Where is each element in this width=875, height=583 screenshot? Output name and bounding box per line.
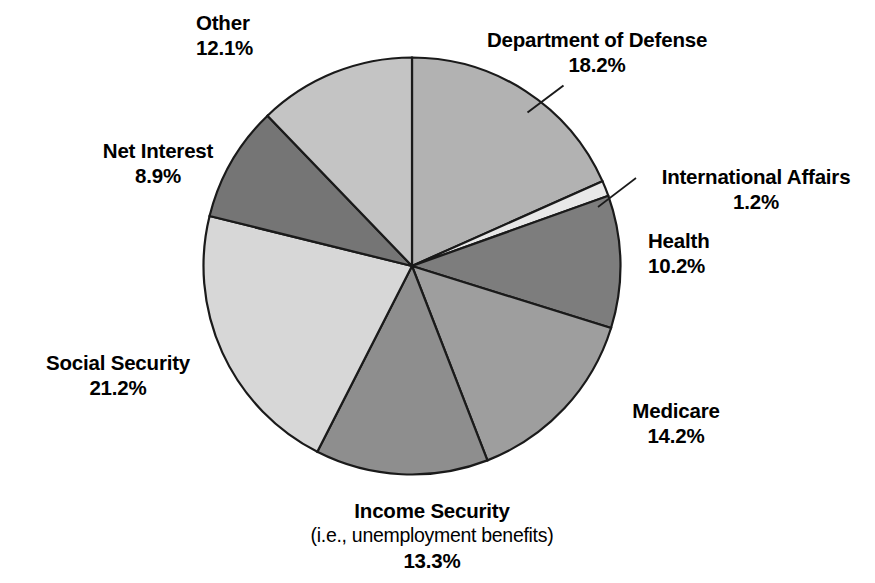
slice-label-social-security: Social Security 21.2%	[18, 350, 218, 400]
slice-label-international-affairs-name: International Affairs	[640, 164, 872, 189]
slice-label-income-security-value: 13.3%	[246, 548, 618, 573]
pie-chart-graphic	[0, 0, 875, 583]
slice-label-other-name: Other	[196, 10, 326, 35]
slice-label-international-affairs-value: 1.2%	[640, 189, 872, 214]
slice-label-net-interest-value: 8.9%	[72, 163, 244, 188]
pie-chart: Other 12.1% Department of Defense 18.2% …	[0, 0, 875, 583]
slice-label-department-of-defense: Department of Defense 18.2%	[452, 27, 742, 77]
slice-label-other-value: 12.1%	[196, 35, 326, 60]
pie-slices	[204, 58, 621, 475]
slice-label-department-of-defense-name: Department of Defense	[452, 27, 742, 52]
slice-label-medicare-value: 14.2%	[596, 423, 756, 448]
slice-label-medicare: Medicare 14.2%	[596, 398, 756, 448]
slice-label-net-interest: Net Interest 8.9%	[72, 138, 244, 188]
slice-label-health-name: Health	[648, 228, 768, 253]
slice-label-department-of-defense-value: 18.2%	[452, 52, 742, 77]
slice-label-income-security-name: Income Security	[246, 498, 618, 523]
slice-label-social-security-value: 21.2%	[18, 375, 218, 400]
slice-label-health-value: 10.2%	[648, 253, 768, 278]
slice-label-health: Health 10.2%	[648, 228, 768, 278]
slice-label-net-interest-name: Net Interest	[72, 138, 244, 163]
slice-label-social-security-name: Social Security	[18, 350, 218, 375]
slice-label-other: Other 12.1%	[196, 10, 326, 60]
slice-label-international-affairs: International Affairs 1.2%	[640, 164, 872, 214]
slice-label-income-security-sublabel: (i.e., unemployment benefits)	[246, 523, 618, 548]
slice-label-income-security: Income Security (i.e., unemployment bene…	[246, 498, 618, 573]
slice-label-medicare-name: Medicare	[596, 398, 756, 423]
